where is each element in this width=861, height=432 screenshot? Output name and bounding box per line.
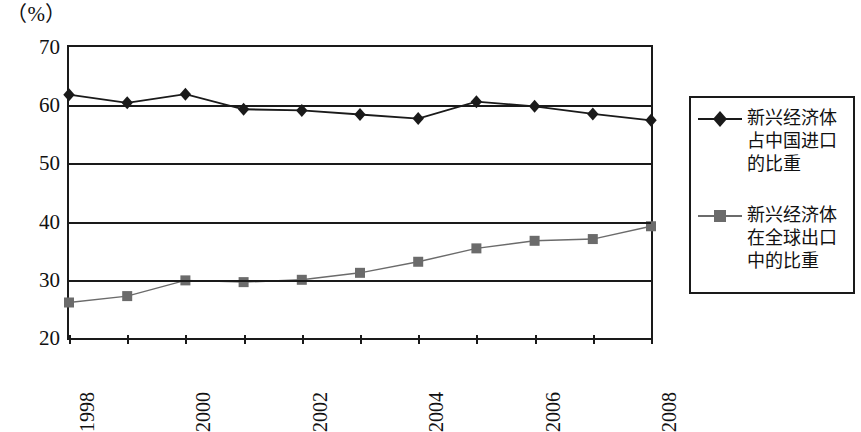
gridline-60 (69, 105, 651, 107)
x-tick-mark-2006 (535, 335, 537, 344)
data-point-square-2001 (239, 277, 249, 287)
x-tick-mark-2007 (593, 335, 595, 344)
data-point-diamond-1999 (121, 96, 132, 109)
data-point-diamond-2003 (354, 108, 365, 121)
y-tick-label-60: 60 (8, 95, 60, 116)
legend-marker-diamond-icon (697, 106, 743, 132)
x-tick-mark-2008 (651, 335, 653, 344)
x-tick-mark-2003 (360, 335, 362, 344)
x-axis-tick-labels: 199820002002200420062008 (67, 344, 653, 395)
x-tick-mark-1999 (127, 335, 129, 344)
legend: 新兴经济体 占中国进口 的比重 新兴经济体 在全球出口 中的比重 (689, 96, 855, 294)
unit-label: （%） (6, 4, 67, 25)
series-1-diamond (63, 88, 656, 127)
y-tick-label-40: 40 (8, 211, 60, 232)
x-tick-mark-1998 (69, 335, 71, 344)
x-tick-label-1998: 1998 (77, 392, 97, 432)
x-tick-label-2000: 2000 (193, 392, 213, 432)
data-point-diamond-2008 (645, 114, 656, 127)
data-point-square-2007 (588, 234, 598, 244)
legend-label-1: 新兴经济体 在全球出口 中的比重 (747, 203, 837, 272)
data-point-diamond-2000 (180, 88, 191, 101)
y-tick-label-20: 20 (8, 328, 60, 349)
x-tick-label-2004: 2004 (426, 392, 446, 432)
legend-label-0: 新兴经济体 占中国进口 的比重 (747, 106, 837, 175)
plot-inner (69, 47, 651, 338)
y-tick-label-50: 50 (8, 153, 60, 174)
legend-marker-square-icon (697, 203, 743, 229)
data-point-square-1999 (122, 291, 132, 301)
data-point-square-2003 (355, 268, 365, 278)
data-point-square-2006 (530, 236, 540, 246)
data-point-square-1998 (64, 297, 74, 307)
data-point-diamond-1998 (63, 88, 74, 101)
y-tick-label-30: 30 (8, 269, 60, 290)
legend-item-0: 新兴经济体 占中国进口 的比重 (697, 106, 837, 175)
x-tick-mark-2005 (476, 335, 478, 344)
plot-area (67, 45, 653, 340)
data-point-diamond-2007 (587, 107, 598, 120)
series-layer (69, 47, 651, 338)
x-tick-label-2006: 2006 (543, 392, 563, 432)
gridline-40 (69, 222, 651, 224)
x-tick-label-2008: 2008 (659, 392, 679, 432)
x-tick-mark-2001 (244, 335, 246, 344)
y-axis-tick-labels: 706050403020 (0, 45, 60, 340)
data-point-diamond-2004 (412, 112, 423, 125)
series-2-square (64, 221, 656, 307)
x-tick-mark-2004 (418, 335, 420, 344)
gridline-30 (69, 280, 651, 282)
data-point-square-2005 (471, 243, 481, 253)
y-tick-label-70: 70 (8, 37, 60, 58)
x-tick-mark-2000 (185, 335, 187, 344)
gridline-50 (69, 163, 651, 165)
x-tick-mark-2002 (302, 335, 304, 344)
legend-item-1: 新兴经济体 在全球出口 中的比重 (697, 203, 837, 272)
data-point-square-2004 (413, 257, 423, 267)
series-2-line (69, 226, 651, 302)
x-tick-label-2002: 2002 (310, 392, 330, 432)
